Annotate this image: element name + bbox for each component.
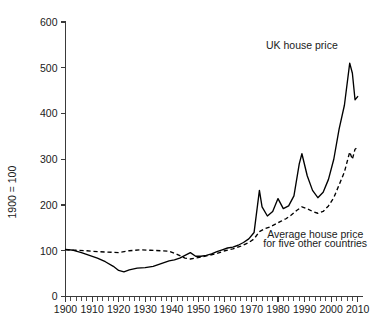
annotation-other-countries-line2: for five other countries — [263, 237, 367, 249]
y-tick-label-100: 100 — [40, 245, 58, 257]
x-tick-label-1900: 1900 — [54, 303, 78, 315]
y-tick-label-200: 200 — [40, 199, 58, 211]
x-tick-label-1980: 1980 — [266, 303, 290, 315]
x-tick-label-2010: 2010 — [346, 303, 370, 315]
y-tick-label-400: 400 — [40, 107, 58, 119]
x-tick-label-1960: 1960 — [213, 303, 237, 315]
chart-container: 0100200300400500600190019101920193019401… — [0, 0, 391, 329]
y-tick-label-300: 300 — [40, 153, 58, 165]
line-chart: 0100200300400500600190019101920193019401… — [0, 0, 391, 329]
x-tick-label-1990: 1990 — [293, 303, 317, 315]
x-tick-label-1930: 1930 — [134, 303, 158, 315]
x-tick-label-1940: 1940 — [160, 303, 184, 315]
x-tick-label-1910: 1910 — [80, 303, 104, 315]
x-tick-label-2000: 2000 — [319, 303, 343, 315]
y-axis-title: 1900 = 100 — [6, 166, 18, 219]
x-tick-label-1950: 1950 — [187, 303, 211, 315]
y-tick-label-0: 0 — [52, 290, 58, 302]
x-tick-label-1970: 1970 — [240, 303, 264, 315]
y-tick-label-600: 600 — [40, 16, 58, 28]
annotation-uk-house-price: UK house price — [266, 39, 338, 51]
x-tick-label-1920: 1920 — [107, 303, 131, 315]
y-tick-label-500: 500 — [40, 62, 58, 74]
